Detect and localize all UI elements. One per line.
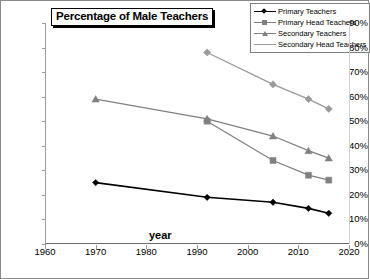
y-tick-mark: [42, 72, 46, 73]
legend-marker-diamond-icon: [261, 8, 267, 14]
plot-right-border: [349, 23, 350, 244]
y-tick-mark: [42, 121, 46, 122]
legend-swatch-icon: [253, 28, 277, 39]
x-tick-mark: [349, 245, 350, 249]
x-tick-mark: [298, 245, 299, 249]
legend-item[interactable]: Primary Teachers: [253, 6, 366, 17]
y-tick-mark: [42, 97, 46, 98]
legend-label: Primary Teachers: [277, 7, 336, 16]
legend-label: Secondary Teachers: [277, 29, 346, 38]
x-tick-mark: [248, 245, 249, 249]
y-tick-mark: [42, 195, 46, 196]
plot-area: [45, 23, 349, 244]
x-tick-mark: [146, 245, 147, 249]
x-tick-mark: [45, 245, 46, 249]
y-tick-mark: [42, 146, 46, 147]
x-tick-mark: [96, 245, 97, 249]
y-tick-mark: [42, 170, 46, 171]
chart-title: Percentage of Male Teachers: [51, 8, 213, 26]
legend-swatch-icon: [253, 17, 277, 28]
y-tick-mark: [42, 219, 46, 220]
legend-swatch-icon: [253, 39, 277, 50]
legend-marker-square-icon: [262, 20, 267, 25]
x-tick-mark: [197, 245, 198, 249]
y-tick-mark: [42, 48, 46, 49]
legend-marker-triangle-icon: [262, 31, 268, 36]
y-tick-mark: [42, 23, 46, 24]
legend-swatch-icon: [253, 6, 277, 17]
x-axis-title: year: [149, 229, 172, 241]
